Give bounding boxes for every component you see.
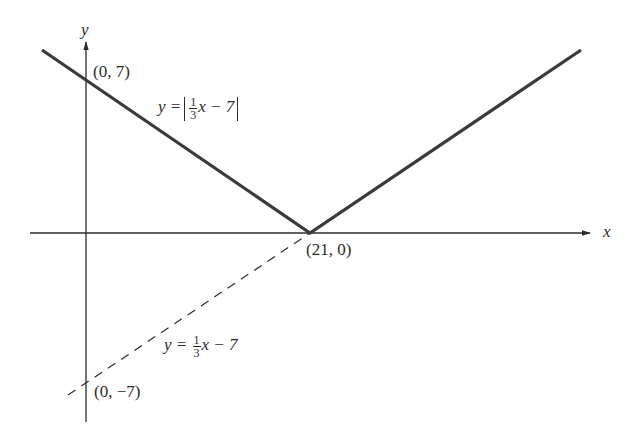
abs-bar-left xyxy=(184,97,185,121)
point-label-0-neg7: (0, −7) xyxy=(94,383,140,400)
equation-linear-rest: x − 7 xyxy=(202,335,238,354)
equation-abs-rest: x − 7 xyxy=(198,97,234,116)
equation-abs-fraction: 13 xyxy=(189,96,197,121)
equation-abs-label: y =13x − 7 xyxy=(158,96,241,121)
equation-linear-label: y = 13x − 7 xyxy=(164,334,238,359)
point-label-0-7: (0, 7) xyxy=(93,63,130,80)
equation-linear-fraction: 13 xyxy=(193,334,201,359)
equation-abs-lhs: y = xyxy=(158,97,181,116)
abs-bar-right xyxy=(237,97,238,121)
fraction-denominator: 3 xyxy=(189,109,197,121)
dashed-line-linear xyxy=(68,233,310,395)
x-axis-label: x xyxy=(603,223,611,240)
fraction-denominator: 3 xyxy=(193,347,201,359)
point-label-21-0: (21, 0) xyxy=(306,241,351,258)
equation-linear-lhs: y = xyxy=(164,335,187,354)
y-axis-label: y xyxy=(81,21,89,38)
